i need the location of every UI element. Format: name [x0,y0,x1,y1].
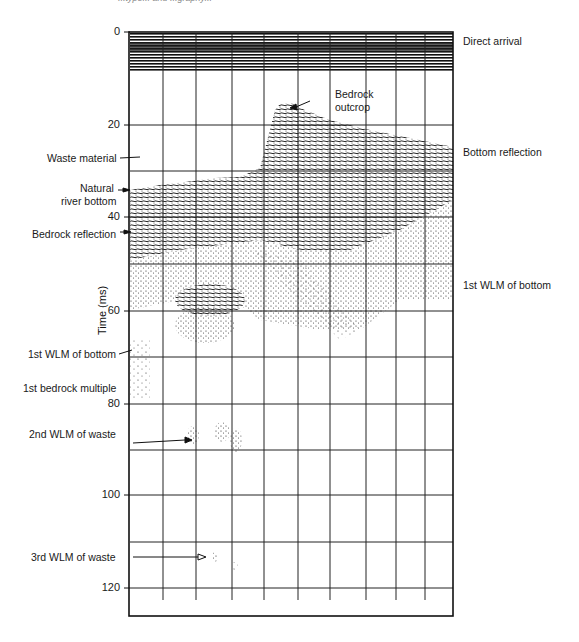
label-bottom-reflection: Bottom reflection [463,146,542,158]
label-wlm-bottom-left: 1st WLM of bottom [28,348,116,360]
label-bedrock-outcrop-1: Bedrock [335,88,374,100]
seismic-profile-plot [0,0,579,642]
label-bedrock-multiple: 1st bedrock multiple [23,382,116,394]
label-bedrock-reflection: Bedrock reflection [32,228,116,240]
label-bedrock-outcrop-2: outcrop [335,101,370,113]
label-direct-arrival: Direct arrival [463,35,522,47]
label-natural: Natural [80,182,114,194]
label-waste-material: Waste material [47,152,117,164]
label-river-bottom: river bottom [61,195,116,207]
label-wlm-waste-3: 3rd WLM of waste [31,551,116,563]
y-tick-120: 120 [90,581,120,593]
y-tick-40: 40 [90,210,120,222]
y-tick-0: 0 [90,25,120,37]
label-wlm-waste-2: 2nd WLM of waste [29,428,116,440]
label-wlm-bottom-right: 1st WLM of bottom [463,279,551,291]
waste-multiple-3 [212,552,218,562]
y-axis-label: Time (ms) [96,286,108,335]
y-tick-80: 80 [90,397,120,409]
y-tick-100: 100 [90,488,120,500]
y-tick-20: 20 [90,118,120,130]
